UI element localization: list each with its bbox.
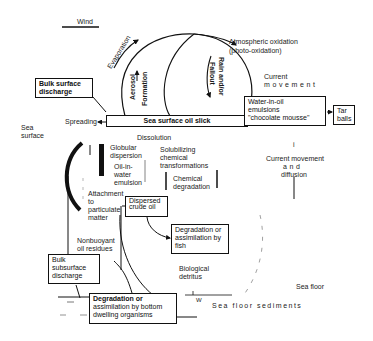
fish-degradation-box: Degradation or assimilation by fish (171, 224, 229, 254)
cmd-line2: and (283, 163, 302, 171)
current-top-line2: movement (264, 81, 317, 89)
atmo-oxidation-line1: Atmospheric oxidation (229, 38, 298, 46)
w-mark: W (196, 296, 202, 304)
oilin-line2: water (114, 171, 131, 179)
fish-line2: assimilation by (175, 234, 225, 242)
solub-line2: chemical (160, 154, 188, 162)
sea-floor-boundary (243, 215, 263, 296)
wind-label: Wind (77, 18, 93, 26)
chem-line1: Chemical (173, 175, 202, 183)
oilin-line1: Oil-in- (114, 163, 133, 171)
nonbuoy-line2: oil residues (77, 245, 112, 253)
bulk-surface-line2: discharge (39, 88, 89, 96)
globular-line1: Globular (110, 144, 136, 152)
spreading-left-label: Spreading (65, 118, 97, 126)
solub-line1: Solubilizing (160, 146, 195, 154)
sea-floor-label: Sea floor (296, 283, 324, 291)
globular-bar (99, 144, 104, 176)
oilin-line3: emulsion (114, 179, 142, 187)
bulk-subsurface-box: Bulk subsurface discharge (48, 254, 100, 284)
tar-balls-box: Tar balls (333, 105, 355, 125)
fish-line3: fish (175, 242, 225, 250)
attach-line2: to (88, 198, 94, 206)
emulsion-line3: "chocolate mousse" (248, 114, 322, 122)
tar-line2: balls (337, 115, 351, 123)
dispersed-to-fish-arrow (147, 217, 170, 238)
bottom-line1: Degradation or (93, 295, 173, 303)
current-top-line1: Current (264, 73, 287, 81)
bottom-line3: dwelling organisms (93, 311, 173, 319)
bulk-surface-connector (93, 97, 106, 112)
atmosphere-arc-inner (164, 34, 194, 116)
cmd-line3: diffusion (281, 171, 307, 179)
atmo-oxidation-line2: (photo-oxidation) (229, 47, 282, 55)
globular-line2: dispersion (110, 152, 142, 160)
oil-slick-box: Sea surface oil slick (106, 115, 248, 127)
cmd-line1: Current movement (266, 155, 324, 163)
fallout-label: Fallout (208, 62, 216, 85)
dispersed-line2: crude oil (129, 204, 164, 210)
sea-surface-line2: surface (21, 132, 44, 140)
bulk-sub-line1: Bulk (52, 256, 96, 264)
attach-line1: Attachment (88, 190, 123, 198)
bio-line1: Biological (179, 265, 209, 273)
solub-line3: transformations (160, 162, 208, 170)
chem-line2: degradation (173, 183, 210, 191)
bulk-surface-line1: Bulk surface (39, 80, 89, 88)
surface-bracket (67, 143, 82, 210)
bulk-sub-line3: discharge (52, 272, 96, 280)
dispersed-crude-box: Dispersed crude oil (125, 196, 168, 217)
rain-label: Rain and/or (217, 57, 225, 96)
attach-line3: particulate (88, 206, 120, 214)
emulsion-box: Water-in-oil emulsions "chocolate mousse… (244, 96, 326, 126)
dissolution-label: Dissolution (137, 134, 171, 142)
fish-line1: Degradation or (175, 226, 225, 234)
emulsion-line2: emulsions (248, 106, 322, 114)
nonbuoy-line1: Nonbuoyant (77, 237, 115, 245)
bottom-line2: assimilation by bottom (93, 303, 173, 311)
emulsion-line1: Water-in-oil (248, 98, 322, 106)
current-tick: i (293, 141, 295, 149)
bulk-surface-discharge-box: Bulk surface discharge (35, 78, 93, 98)
sinking-curve-2 (114, 261, 132, 293)
attach-line4: matter (88, 214, 108, 222)
sea-floor-sediments-label: Sea floor sediments (212, 302, 302, 310)
aerosol-label: Aerosol (129, 74, 137, 100)
bottom-degradation-box: Degradation or assimilation by bottom dw… (89, 293, 177, 324)
sea-surface-line1: Sea (21, 124, 33, 132)
tar-line1: Tar (337, 107, 351, 115)
bio-line2: detritus (179, 273, 202, 281)
sinking-curve (120, 215, 153, 295)
formation-label: Formation (141, 72, 149, 106)
bulk-sub-line2: subsurface (52, 264, 96, 272)
